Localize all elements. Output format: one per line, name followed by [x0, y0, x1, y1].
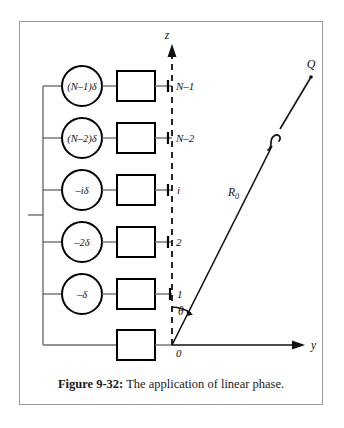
array-element-row: (N–1)δ N–1: [62, 66, 194, 106]
figure-page: (N–1)δ N–1 (N–2)δ N–2 –iδ i: [0, 0, 344, 428]
amplifier-box[interactable]: [117, 227, 155, 257]
ray-length-label: R0: [227, 186, 239, 201]
phase-shifter-label: –δ: [76, 289, 88, 300]
figure-caption-text: The application of linear phase.: [126, 377, 284, 391]
position-label: N–2: [175, 132, 195, 144]
observation-point-label: Q: [307, 57, 316, 71]
z-axis-label: z: [164, 29, 170, 41]
amplifier-box[interactable]: [117, 123, 155, 153]
ray-break-symbol: [268, 135, 285, 156]
y-axis: y: [172, 339, 317, 352]
array-element-row: –2δ 2: [62, 222, 182, 262]
amplifier-box[interactable]: [117, 330, 155, 360]
position-label: N–1: [175, 80, 194, 92]
ray-to-observation-point: Q R0: [172, 57, 316, 345]
ray-segment-lower: [172, 146, 272, 345]
position-label: 2: [176, 236, 182, 248]
amplifier-box[interactable]: [117, 71, 155, 101]
array-element-row: –δ 1: [62, 274, 183, 314]
amplifier-box[interactable]: [117, 175, 155, 205]
y-axis-arrowhead: [292, 341, 305, 350]
phase-shifter-label: (N–1)δ: [67, 81, 97, 93]
linear-phase-array-diagram: (N–1)δ N–1 (N–2)δ N–2 –iδ i: [0, 0, 344, 428]
figure-caption: Figure 9-32: The application of linear p…: [19, 377, 323, 392]
y-axis-label: y: [310, 339, 317, 352]
ray-segment-upper: [280, 77, 311, 129]
origin-label: 0: [176, 347, 182, 359]
position-label: 1: [177, 288, 183, 300]
phase-shifter-label: –iδ: [74, 185, 89, 196]
phase-shifter-label: –2δ: [73, 237, 91, 248]
z-axis-arrowhead: [168, 44, 177, 57]
observation-point-dot: [309, 75, 313, 79]
theta-label: θ: [178, 305, 184, 317]
figure-caption-label: Figure 9-32:: [58, 377, 123, 391]
array-element-row: (N–2)δ N–2: [62, 118, 195, 158]
phase-shifter-label: (N–2)δ: [67, 133, 97, 145]
array-element-row: –iδ i: [62, 170, 180, 210]
amplifier-box[interactable]: [117, 279, 155, 309]
position-label: i: [177, 184, 180, 196]
